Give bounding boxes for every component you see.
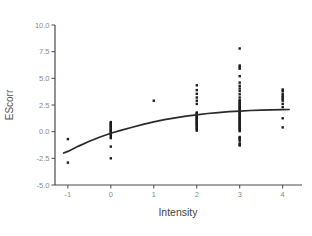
y-tick-label: -2.5 (37, 154, 50, 163)
scatter-point (239, 68, 241, 70)
scatter-point (239, 144, 241, 146)
x-tick-label: 2 (195, 190, 199, 199)
scatter-point (239, 47, 241, 49)
scatter-point (196, 89, 198, 91)
scatter-points (67, 47, 284, 163)
scatter-point (239, 75, 241, 77)
y-tick-label: 2.5 (39, 101, 49, 110)
fit-curve (64, 110, 290, 154)
scatter-point (282, 106, 284, 108)
x-tick-label: 0 (109, 190, 113, 199)
scatter-chart-figure: 10.07.55.02.50.0-2.5-5.0-101234 Intensit… (0, 0, 312, 236)
x-axis-title: Intensity (158, 206, 198, 218)
scatter-point (153, 100, 155, 102)
scatter-point (239, 85, 241, 87)
scatter-point (67, 138, 69, 140)
x-tick-label: -1 (65, 190, 72, 199)
x-tick-label: 3 (238, 190, 242, 199)
x-tick-label: 4 (281, 190, 285, 199)
scatter-point (110, 137, 112, 139)
chart-canvas: 10.07.55.02.50.0-2.5-5.0-101234 Intensit… (0, 0, 312, 236)
scatter-point (282, 90, 284, 92)
scatter-point (239, 96, 241, 98)
x-tick-label: 1 (152, 190, 156, 199)
scatter-point (67, 161, 69, 163)
scatter-point (239, 93, 241, 95)
scatter-point (196, 96, 198, 98)
y-tick-label: 0.0 (39, 127, 49, 136)
scatter-point (196, 84, 198, 86)
scatter-point (239, 81, 241, 83)
scatter-point (196, 100, 198, 102)
scatter-point (196, 103, 198, 105)
scatter-point (239, 130, 241, 132)
y-tick-label: 5.0 (39, 74, 49, 83)
scatter-point (110, 145, 112, 147)
scatter-point (282, 126, 284, 128)
y-axis-title: EScorr (4, 89, 15, 120)
scatter-point (196, 93, 198, 95)
scatter-point (282, 100, 284, 102)
scatter-point (239, 87, 241, 89)
scatter-point (239, 90, 241, 92)
scatter-point (196, 129, 198, 131)
scatter-point (110, 157, 112, 159)
scatter-point (239, 140, 241, 142)
scatter-point (282, 103, 284, 105)
y-tick-label: 10.0 (35, 21, 50, 30)
y-tick-label: 7.5 (39, 47, 49, 56)
scatter-point (282, 93, 284, 95)
y-tick-label: -5.0 (37, 181, 50, 190)
scatter-point (282, 117, 284, 119)
